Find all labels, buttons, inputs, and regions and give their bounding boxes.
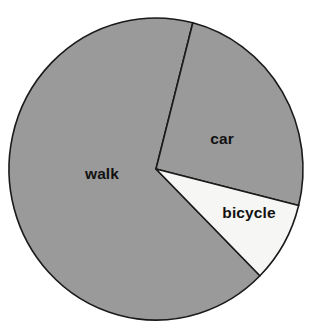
pie-chart-svg: walk car bicycle xyxy=(0,0,311,328)
pie-label-bicycle: bicycle xyxy=(222,204,276,221)
pie-label-walk: walk xyxy=(84,165,119,182)
pie-chart-figure: walk car bicycle xyxy=(0,0,311,328)
pie-slices xyxy=(9,18,303,320)
pie-label-car: car xyxy=(210,130,234,147)
